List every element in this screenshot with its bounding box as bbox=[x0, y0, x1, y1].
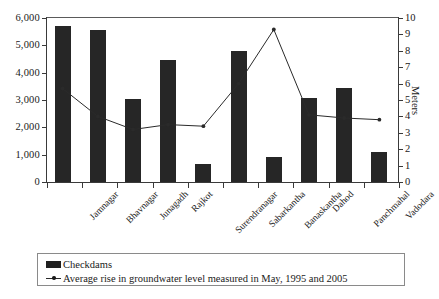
legend-item-checkdams: Checkdams bbox=[46, 257, 404, 271]
right-tick-label: 9 bbox=[405, 29, 423, 39]
category-label: Jamnagar bbox=[88, 189, 121, 222]
category-label: Rajkot bbox=[189, 189, 214, 214]
line-data-point bbox=[378, 118, 382, 122]
left-tick-label: 3,000 bbox=[0, 95, 40, 105]
category-tick bbox=[258, 183, 259, 188]
category-tick bbox=[117, 183, 118, 188]
category-tick bbox=[364, 183, 365, 188]
left-tick-label: 4,000 bbox=[0, 68, 40, 78]
category-label: Panchmahal bbox=[372, 189, 412, 229]
line-data-point bbox=[272, 28, 276, 32]
right-tick-label: 7 bbox=[405, 62, 423, 72]
category-tick bbox=[223, 183, 224, 188]
legend-item-groundwater-rise: Average rise in groundwater level measur… bbox=[46, 271, 404, 285]
legend: Checkdams Average rise in groundwater le… bbox=[37, 253, 405, 286]
right-tick-label: 1 bbox=[405, 161, 423, 171]
category-label: Bhavnagar bbox=[124, 189, 160, 225]
category-tick bbox=[329, 183, 330, 188]
line-data-point bbox=[96, 115, 100, 119]
bar-swatch-icon bbox=[46, 261, 61, 268]
line-data-point bbox=[342, 116, 346, 120]
right-tick-label: 0 bbox=[405, 177, 423, 187]
category-tick bbox=[82, 183, 83, 188]
line-data-point bbox=[307, 113, 311, 117]
line-data-point bbox=[202, 124, 206, 128]
line-marker-icon bbox=[46, 275, 61, 282]
left-tick-label: 1,000 bbox=[0, 150, 40, 160]
category-tick bbox=[153, 183, 154, 188]
right-axis-title: Meters bbox=[410, 86, 421, 115]
left-tick-label: 2,000 bbox=[0, 122, 40, 132]
right-tick-label: 10 bbox=[405, 13, 423, 23]
groundwater-checkdams-chart: 01,0002,0003,0004,0005,0006,000 01234567… bbox=[0, 0, 439, 299]
legend-label-groundwater-rise: Average rise in groundwater level measur… bbox=[63, 273, 348, 284]
line-data-point bbox=[237, 82, 241, 86]
category-tick bbox=[188, 183, 189, 188]
plot-area bbox=[47, 18, 399, 182]
line-series-groundwater-rise bbox=[47, 18, 399, 182]
left-tick-label: 5,000 bbox=[0, 40, 40, 50]
left-tick-label: 6,000 bbox=[0, 13, 40, 23]
line-data-point bbox=[61, 87, 65, 91]
category-tick bbox=[293, 183, 294, 188]
legend-label-checkdams: Checkdams bbox=[63, 259, 112, 270]
left-tick-label: 0 bbox=[0, 177, 40, 187]
right-tick-label: 8 bbox=[405, 46, 423, 56]
right-tick-label: 2 bbox=[405, 144, 423, 154]
line-data-point bbox=[131, 128, 135, 132]
line-data-point bbox=[166, 123, 170, 127]
category-tick bbox=[399, 183, 400, 188]
category-tick bbox=[47, 183, 48, 188]
category-label: Junagadh bbox=[158, 189, 190, 221]
right-tick-label: 3 bbox=[405, 128, 423, 138]
